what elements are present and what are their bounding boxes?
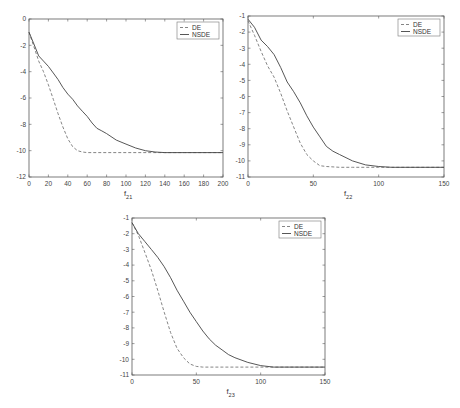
x-tick-label: 160 xyxy=(179,180,190,187)
x-tick-label: 150 xyxy=(320,378,331,385)
y-tick-label: -1 xyxy=(123,214,129,221)
chart-f23: 050100150-1-2-3-4-5-6-7-8-9-10-11f23DENS… xyxy=(120,214,331,398)
y-tick-label: -8 xyxy=(20,121,26,128)
legend-nsde-label: NSDE xyxy=(294,230,313,237)
plot-area xyxy=(29,19,223,177)
y-tick-label: -5 xyxy=(239,77,245,84)
chart-f22: 050100150-1-2-3-4-5-6-7-8-9-10-11f22DENS… xyxy=(236,12,450,200)
x-tick-label: 40 xyxy=(64,180,72,187)
y-tick-label: -6 xyxy=(20,94,26,101)
y-tick-label: -9 xyxy=(239,141,245,148)
y-tick-label: -10 xyxy=(17,147,27,154)
x-tick-label: 50 xyxy=(193,378,201,385)
y-tick-label: -6 xyxy=(239,93,245,100)
legend: DENSDE xyxy=(279,221,321,238)
x-tick-label: 60 xyxy=(84,180,92,187)
x-tick-label: 100 xyxy=(373,180,384,187)
y-tick-label: -2 xyxy=(123,230,129,237)
y-tick-label: -9 xyxy=(123,340,129,347)
y-tick-label: -3 xyxy=(123,246,129,253)
y-tick-label: -7 xyxy=(239,109,245,116)
x-tick-label: 200 xyxy=(218,180,229,187)
y-tick-label: -11 xyxy=(120,371,129,378)
y-tick-label: -4 xyxy=(20,68,26,75)
y-tick-label: -10 xyxy=(236,157,246,164)
y-tick-label: -11 xyxy=(236,173,245,180)
y-tick-label: -12 xyxy=(17,173,27,180)
x-tick-label: 80 xyxy=(103,180,111,187)
y-tick-label: -10 xyxy=(120,356,130,363)
x-tick-label: 120 xyxy=(140,180,151,187)
y-tick-label: -4 xyxy=(123,261,129,268)
plot-area xyxy=(132,218,325,375)
x-tick-label: 100 xyxy=(121,180,132,187)
y-tick-label: -6 xyxy=(123,293,129,300)
y-tick-label: -8 xyxy=(123,324,129,331)
legend: DENSDE xyxy=(177,22,219,39)
y-tick-label: -7 xyxy=(123,309,129,316)
x-tick-label: 0 xyxy=(130,378,134,385)
series-de-line xyxy=(132,223,325,367)
legend: DENSDE xyxy=(398,19,440,36)
x-axis-label: f23 xyxy=(227,387,235,398)
series-nsde-line xyxy=(132,223,325,367)
y-tick-label: -2 xyxy=(239,28,245,35)
x-tick-label: 0 xyxy=(27,180,31,187)
plot-area xyxy=(248,16,444,177)
x-tick-label: 50 xyxy=(310,180,318,187)
y-tick-label: -5 xyxy=(123,277,129,284)
x-tick-label: 20 xyxy=(45,180,53,187)
series-de-line xyxy=(248,21,444,168)
y-tick-label: -3 xyxy=(239,45,245,52)
x-tick-label: 140 xyxy=(159,180,170,187)
x-axis-label: f21 xyxy=(124,189,132,200)
y-tick-label: -1 xyxy=(239,12,245,19)
x-axis-label: f22 xyxy=(344,189,352,200)
legend-nsde-label: NSDE xyxy=(192,31,211,38)
legend-nsde-label: NSDE xyxy=(413,28,432,35)
y-tick-label: -2 xyxy=(20,42,26,49)
series-nsde-line xyxy=(248,19,444,167)
legend-de-label: DE xyxy=(413,21,423,28)
y-tick-label: -4 xyxy=(239,61,245,68)
legend-de-label: DE xyxy=(294,223,304,230)
x-tick-label: 100 xyxy=(255,378,266,385)
x-tick-label: 180 xyxy=(198,180,209,187)
figure-canvas: 0204060801001201401601802000-2-4-6-8-10-… xyxy=(0,0,460,408)
legend-de-label: DE xyxy=(192,24,202,31)
chart-f21: 0204060801001201401601802000-2-4-6-8-10-… xyxy=(17,15,229,200)
series-nsde-line xyxy=(29,32,223,152)
x-tick-label: 150 xyxy=(439,180,450,187)
x-tick-label: 0 xyxy=(246,180,250,187)
y-tick-label: -8 xyxy=(239,125,245,132)
y-tick-label: 0 xyxy=(22,15,26,22)
series-de-line xyxy=(29,32,223,152)
